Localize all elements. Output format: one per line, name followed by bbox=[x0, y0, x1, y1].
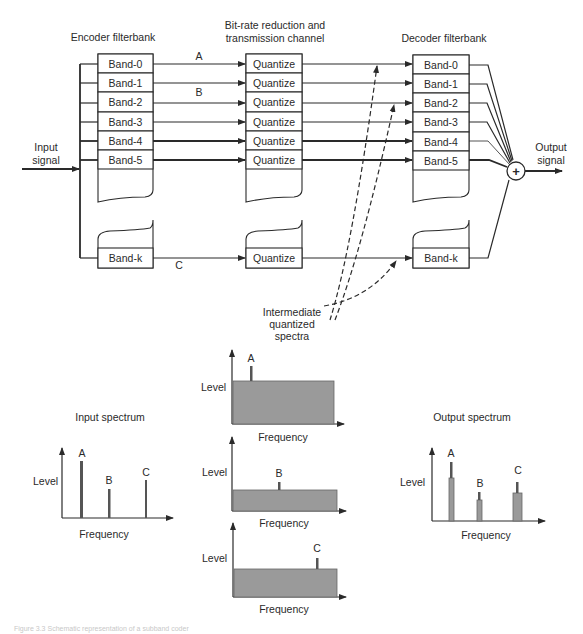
svg-text:C: C bbox=[313, 542, 321, 554]
decoder-band-0: Band-0 bbox=[413, 55, 469, 74]
svg-text:Frequency: Frequency bbox=[258, 431, 308, 443]
svg-text:Band-1: Band-1 bbox=[424, 78, 458, 90]
summing-junction: + bbox=[507, 162, 525, 180]
channel-title-line1: Bit-rate reduction and bbox=[225, 19, 326, 31]
output-ylabel: Level bbox=[400, 476, 425, 488]
intermediate-spectrum-b: B Level Frequency bbox=[202, 437, 346, 529]
svg-text:Quantize: Quantize bbox=[253, 77, 295, 89]
svg-text:A: A bbox=[447, 447, 454, 459]
decoder-band-3: Band-3 bbox=[413, 112, 469, 132]
subband-coder-diagram: Encoder filterbank Bit-rate reduction an… bbox=[0, 0, 583, 634]
intermediate-spectrum-a: A Level Frequency bbox=[201, 350, 344, 443]
output-spectrum-title: Output spectrum bbox=[433, 411, 511, 423]
svg-text:Quantize: Quantize bbox=[253, 252, 295, 264]
encoder-band-0: Band-0 bbox=[98, 54, 153, 73]
intermediate-spectra-taps bbox=[324, 66, 396, 320]
input-peak-b bbox=[108, 489, 111, 518]
encoder-title: Encoder filterbank bbox=[71, 31, 156, 43]
svg-text:C: C bbox=[514, 464, 522, 476]
plus-icon: + bbox=[512, 164, 520, 179]
encoder-band-5: Band-5 bbox=[98, 150, 153, 169]
svg-text:Band-3: Band-3 bbox=[424, 116, 458, 128]
annotation-line2: quantized bbox=[269, 318, 315, 330]
svg-text:Quantize: Quantize bbox=[253, 116, 295, 128]
quantize-block-1: Quantize bbox=[246, 73, 302, 92]
input-label-line2: signal bbox=[32, 154, 59, 166]
svg-text:Band-2: Band-2 bbox=[109, 96, 143, 108]
svg-text:Band-0: Band-0 bbox=[424, 59, 458, 71]
signal-label-c: C bbox=[175, 259, 183, 271]
encoder-band-1: Band-1 bbox=[98, 73, 153, 92]
quantize-block-2: Quantize bbox=[246, 92, 302, 112]
svg-text:Band-3: Band-3 bbox=[109, 116, 143, 128]
encoder-filterbank: Band-0 Band-1 Band-2 Band-3 Band-4 Band-… bbox=[98, 54, 153, 268]
output-xlabel: Frequency bbox=[461, 529, 511, 541]
svg-text:Level: Level bbox=[202, 466, 227, 478]
figure-caption: Figure 3.3 Schematic representation of a… bbox=[14, 625, 189, 633]
output-spectrum-plot: Output spectrum Level Frequency A B C bbox=[400, 411, 545, 541]
quantize-block-5: Quantize bbox=[246, 150, 302, 169]
svg-text:Band-4: Band-4 bbox=[109, 135, 143, 147]
signal-label-a: A bbox=[195, 50, 202, 62]
svg-text:Band-5: Band-5 bbox=[424, 155, 458, 167]
quantize-column: Quantize Quantize Quantize Quantize Quan… bbox=[246, 54, 302, 268]
channel-title-line2: transmission channel bbox=[226, 32, 325, 44]
svg-text:Band-k: Band-k bbox=[109, 252, 143, 264]
output-label-line2: signal bbox=[537, 154, 564, 166]
decoder-band-5: Band-5 bbox=[413, 151, 469, 170]
svg-text:A: A bbox=[247, 352, 254, 364]
annotation-line3: spectra bbox=[275, 330, 310, 342]
input-ylabel: Level bbox=[33, 475, 58, 487]
svg-text:B: B bbox=[476, 477, 483, 489]
encoder-band-4: Band-4 bbox=[98, 131, 153, 150]
svg-text:Band-4: Band-4 bbox=[424, 136, 458, 148]
decoder-band-4: Band-4 bbox=[413, 132, 469, 151]
svg-text:Level: Level bbox=[202, 552, 227, 564]
input-peak-a bbox=[80, 461, 83, 518]
quantize-block-0: Quantize bbox=[246, 54, 302, 73]
svg-text:Band-2: Band-2 bbox=[424, 97, 458, 109]
input-spectrum-title: Input spectrum bbox=[75, 411, 145, 423]
intermediate-spectrum-c: C Level Frequency bbox=[202, 523, 346, 615]
svg-text:B: B bbox=[275, 467, 282, 479]
svg-text:B: B bbox=[105, 474, 112, 486]
svg-text:Frequency: Frequency bbox=[259, 517, 309, 529]
quantize-block-3: Quantize bbox=[246, 112, 302, 131]
svg-text:Frequency: Frequency bbox=[259, 603, 309, 615]
svg-text:Band-0: Band-0 bbox=[109, 58, 143, 70]
svg-text:Quantize: Quantize bbox=[253, 96, 295, 108]
annotation-line1: Intermediate bbox=[263, 306, 322, 318]
svg-text:Quantize: Quantize bbox=[253, 154, 295, 166]
svg-text:C: C bbox=[142, 466, 150, 478]
quantize-to-decoder-arrows bbox=[302, 64, 412, 258]
svg-text:Band-1: Band-1 bbox=[109, 77, 143, 89]
input-spectrum-plot: Input spectrum Level Frequency A B C bbox=[33, 411, 173, 540]
decoder-filterbank: Band-0 Band-1 Band-2 Band-3 Band-4 Band-… bbox=[413, 55, 469, 268]
quantize-block-4: Quantize bbox=[246, 131, 302, 150]
encoder-band-k: Band-k bbox=[98, 248, 153, 268]
svg-text:Quantize: Quantize bbox=[253, 58, 295, 70]
decoder-band-k: Band-k bbox=[413, 248, 469, 268]
output-label-line1: Output bbox=[535, 141, 567, 153]
svg-text:A: A bbox=[78, 447, 85, 459]
bus-taps bbox=[80, 64, 98, 258]
decoder-title: Decoder filterbank bbox=[401, 32, 487, 44]
decoder-to-summer-lines bbox=[469, 65, 513, 258]
svg-text:Band-k: Band-k bbox=[424, 252, 458, 264]
input-label-line1: Input bbox=[34, 141, 57, 153]
svg-text:Level: Level bbox=[201, 381, 226, 393]
input-xlabel: Frequency bbox=[79, 528, 129, 540]
input-peak-c bbox=[145, 480, 147, 518]
svg-text:Band-5: Band-5 bbox=[109, 154, 143, 166]
quantize-block-k: Quantize bbox=[246, 248, 302, 268]
decoder-band-1: Band-1 bbox=[413, 74, 469, 93]
svg-text:Quantize: Quantize bbox=[253, 135, 295, 147]
decoder-band-2: Band-2 bbox=[413, 93, 469, 112]
signal-label-b: B bbox=[195, 86, 202, 98]
encoder-band-2: Band-2 bbox=[98, 92, 153, 112]
encoder-band-3: Band-3 bbox=[98, 112, 153, 131]
